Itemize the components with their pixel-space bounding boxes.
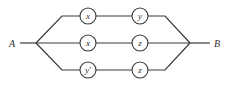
- switch-label: y: [137, 11, 142, 21]
- switch-label: x: [85, 11, 90, 21]
- switch-label: y': [84, 65, 92, 75]
- switching-circuit-diagram: x y x z y' z A B: [0, 0, 232, 89]
- terminal-a-label: A: [8, 38, 16, 49]
- switch-top-1: x: [80, 8, 96, 24]
- branch-bottom-wire: [36, 43, 190, 70]
- switch-top-2: y: [132, 8, 148, 24]
- switch-middle-1: x: [80, 35, 96, 51]
- switch-label: x: [85, 38, 90, 48]
- terminal-b-label: B: [214, 38, 220, 49]
- switch-bottom-2: z: [132, 62, 148, 78]
- branch-top-wire: [36, 16, 190, 43]
- switch-bottom-1: y': [80, 62, 96, 78]
- switch-middle-2: z: [132, 35, 148, 51]
- switch-label: z: [137, 38, 142, 48]
- switch-label: z: [137, 65, 142, 75]
